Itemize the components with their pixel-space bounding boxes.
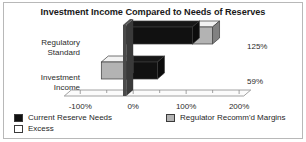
chart-legend: Current Reserve Needs Excess Regulator R… <box>14 113 294 135</box>
legend-label: Excess <box>28 124 54 133</box>
legend-item-current-reserve-needs: Current Reserve Needs <box>14 113 112 122</box>
chart-container: Investment Income Compared to Needs of R… <box>0 0 306 142</box>
x-tick-label: 100% <box>164 102 208 111</box>
x-tick-label: 0% <box>111 102 155 111</box>
x-tick-label: -100% <box>58 102 102 111</box>
legend-item-excess: Excess <box>14 124 54 133</box>
x-tick-label: 200% <box>217 102 261 111</box>
legend-swatch-current-reserve-needs <box>14 114 23 122</box>
legend-label: Regulator Recomm'd Margins <box>180 113 286 122</box>
legend-swatch-regulator-margins <box>166 114 175 122</box>
legend-swatch-excess <box>14 125 23 133</box>
zero-axis-wall <box>123 19 133 96</box>
legend-label: Current Reserve Needs <box>28 113 112 122</box>
legend-item-regulator-margins: Regulator Recomm'd Margins <box>166 113 286 122</box>
